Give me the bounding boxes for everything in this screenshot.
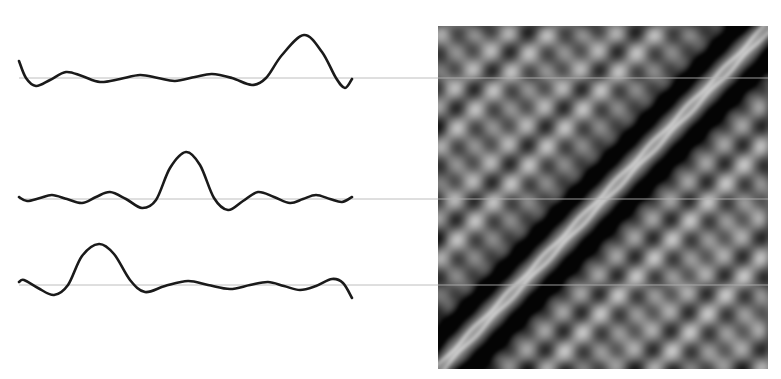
gram-matrix-heatmap bbox=[438, 26, 768, 369]
waveform-1-curve bbox=[19, 35, 352, 88]
curves bbox=[19, 35, 352, 298]
heatmap-canvas bbox=[438, 26, 768, 369]
waveform-2-curve bbox=[19, 152, 352, 210]
waveform-3-curve bbox=[19, 244, 352, 298]
figure bbox=[0, 0, 781, 379]
